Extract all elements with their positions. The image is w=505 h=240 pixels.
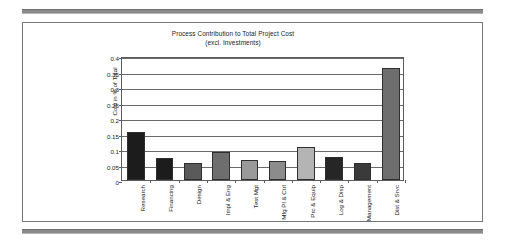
bar bbox=[127, 132, 145, 180]
bar bbox=[269, 161, 287, 180]
bar bbox=[297, 147, 315, 180]
x-tick-label: Mfg Pl & Ctrl bbox=[280, 185, 287, 220]
bar bbox=[212, 152, 230, 180]
y-tick-label: 0.15 bbox=[107, 132, 119, 139]
x-tick-label: Log & Disp bbox=[337, 185, 344, 215]
chart-title-line-2: (excl. Investments) bbox=[83, 38, 383, 47]
x-tick-label: Management bbox=[365, 185, 372, 221]
x-tick-mark bbox=[320, 180, 321, 183]
x-tick-mark bbox=[207, 180, 208, 183]
y-tick-label: 0.3 bbox=[110, 86, 119, 93]
x-tick-mark bbox=[235, 180, 236, 183]
x-tick-mark bbox=[348, 180, 349, 183]
x-tick-label: Design bbox=[195, 185, 202, 204]
x-tick-label: Dist & Srvc bbox=[393, 185, 400, 216]
y-tick-label: 0.05 bbox=[107, 163, 119, 170]
x-tick-label: Test Mgt bbox=[252, 185, 259, 208]
y-tick-label: 0 bbox=[116, 179, 119, 186]
bar bbox=[241, 160, 259, 180]
y-tick-label: 0.4 bbox=[110, 55, 119, 62]
bar bbox=[184, 163, 202, 180]
x-tick-mark bbox=[150, 180, 151, 183]
bar-series bbox=[122, 58, 403, 180]
x-tick-label: Prc & Equip bbox=[309, 185, 316, 218]
x-tick-mark bbox=[377, 180, 378, 183]
x-tick-label: Financing bbox=[167, 185, 174, 212]
x-tick-label: Impl & Eng bbox=[224, 185, 231, 215]
x-tick-mark bbox=[179, 180, 180, 183]
page-rule-bottom bbox=[22, 229, 483, 234]
x-tick-mark bbox=[264, 180, 265, 183]
chart-title-line-1: Process Contribution to Total Project Co… bbox=[172, 30, 294, 37]
y-tick-mark bbox=[119, 182, 122, 183]
y-tick-label: 0.35 bbox=[107, 70, 119, 77]
bar bbox=[382, 68, 400, 180]
bar bbox=[354, 163, 372, 180]
x-tick-mark bbox=[292, 180, 293, 183]
y-tick-label: 0.2 bbox=[110, 117, 119, 124]
chart-title: Process Contribution to Total Project Co… bbox=[83, 29, 383, 47]
figure-frame: Process Contribution to Total Project Co… bbox=[22, 22, 483, 222]
plot-area: Cost in % of Total 0.40.350.30.250.20.15… bbox=[121, 57, 404, 181]
y-tick-label: 0.25 bbox=[107, 101, 119, 108]
page-rule-top bbox=[22, 9, 483, 14]
bar bbox=[156, 158, 174, 180]
x-tick-mark bbox=[405, 180, 406, 183]
bar bbox=[325, 157, 343, 180]
x-tick-label: Research bbox=[139, 185, 146, 211]
y-tick-label: 0.1 bbox=[110, 148, 119, 155]
